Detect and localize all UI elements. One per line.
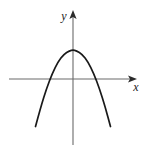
x-axis-label: x — [132, 80, 139, 94]
parabola-figure: y x — [0, 0, 146, 149]
graph-canvas: y x — [0, 0, 146, 149]
y-axis-label: y — [60, 9, 67, 23]
